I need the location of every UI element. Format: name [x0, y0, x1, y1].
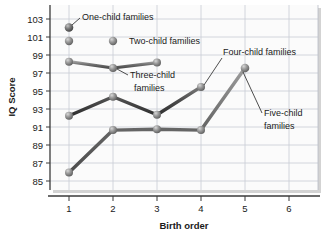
y-tick-label: 101 [27, 32, 43, 43]
data-point [197, 126, 205, 134]
y-tick-label: 85 [32, 176, 43, 187]
annotation-two-child-families: Two-child families [129, 36, 201, 46]
y-tick-label: 91 [32, 122, 43, 133]
chart-figure: 103 101 99 97 95 93 91 89 87 85 1 2 3 4 … [0, 0, 336, 239]
data-point [65, 168, 73, 176]
data-point [241, 64, 250, 73]
data-point [109, 126, 117, 134]
y-axis-title: IQ Score [6, 77, 17, 116]
y-tick-label: 99 [32, 50, 43, 61]
data-point [109, 93, 117, 101]
x-tick-label: 3 [154, 203, 159, 214]
annotation-four-child-families: Four-child families [223, 47, 297, 57]
y-tick-labels: 103 101 99 97 95 93 91 89 87 85 [27, 14, 43, 187]
x-tick-label: 1 [66, 203, 71, 214]
data-point [197, 83, 205, 91]
annotation-one-child-families: One-child families [82, 12, 154, 22]
x-tick-label: 5 [242, 203, 247, 214]
x-tick-label: 6 [286, 203, 291, 214]
y-tick-label: 89 [32, 140, 43, 151]
x-tick-labels: 1 2 3 4 5 6 [66, 203, 291, 214]
annotation-three-child-families-line2: families [134, 83, 165, 93]
x-tick-label: 2 [110, 203, 115, 214]
x-tick-label: 4 [198, 203, 203, 214]
data-point [65, 37, 73, 45]
y-tick-label: 103 [27, 14, 43, 25]
data-point [109, 37, 117, 45]
iq-birth-order-line-chart: 103 101 99 97 95 93 91 89 87 85 1 2 3 4 … [0, 0, 336, 239]
data-point [153, 125, 161, 133]
x-tick-marks [69, 196, 289, 201]
data-point [65, 58, 73, 66]
data-point [65, 112, 73, 120]
y-tick-label: 97 [32, 68, 43, 79]
data-point [109, 64, 117, 72]
annotation-five-child-families-line1: Five-child [264, 108, 303, 118]
y-tick-label: 93 [32, 104, 43, 115]
data-point [153, 59, 161, 67]
y-tick-label: 95 [32, 86, 43, 97]
x-axis-title: Birth order [159, 220, 208, 231]
data-point [153, 111, 161, 119]
annotation-three-child-families-line1: Three-child [130, 70, 175, 80]
y-tick-label: 87 [32, 158, 43, 169]
annotation-five-child-families-line2: families [264, 121, 295, 131]
